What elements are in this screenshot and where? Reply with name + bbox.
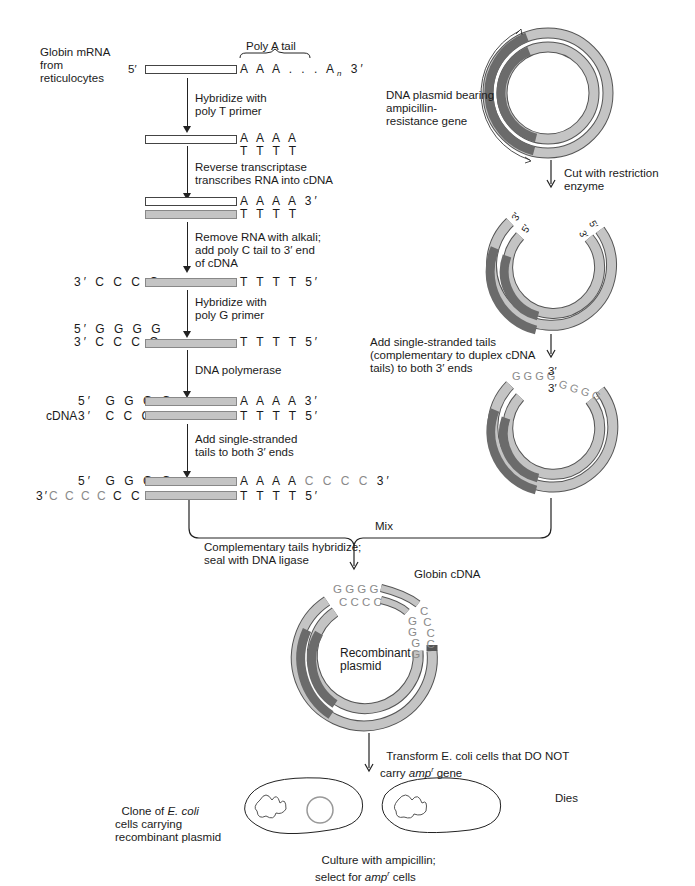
- step-add-tails-plasmid: Add single-stranded tails (complementary…: [370, 336, 536, 375]
- step-hybridize-ligase: Complementary tails hybridize; seal with…: [204, 541, 361, 567]
- plasmid-graphics: [0, 0, 695, 886]
- ecoli-cell-with-plasmid: [245, 778, 363, 834]
- step-transform: Transform E. coli cells that DO NOTcarry…: [380, 737, 569, 780]
- ecoli-cell-dies: [382, 778, 500, 833]
- step-culture: Culture with ampicillin;select for ampr …: [315, 841, 436, 884]
- plasmid-label: DNA plasmid bearing ampicillin- resistan…: [386, 89, 494, 128]
- recombinant-label: Recombinant plasmid: [340, 647, 411, 673]
- mix-label: Mix: [375, 520, 393, 533]
- plasmid-tail-top-end: 3′: [548, 365, 557, 378]
- insert-tail-c: C C C C: [339, 596, 382, 609]
- insert-tail-g: G G G G: [333, 583, 378, 596]
- plasmid-tail-bottom-start: 3′: [548, 382, 557, 395]
- step-cut-restriction: Cut with restriction enzyme: [564, 167, 659, 193]
- plasmid-intact: [481, 29, 608, 163]
- plasmid-cut: [490, 222, 611, 330]
- dies-label: Dies: [555, 792, 578, 805]
- clone-label: Clone of E. colicells carrying recombina…: [115, 792, 221, 844]
- insert-tail-c-right: C C C C: [420, 606, 435, 650]
- globin-cdna-label: Globin cDNA: [414, 568, 480, 581]
